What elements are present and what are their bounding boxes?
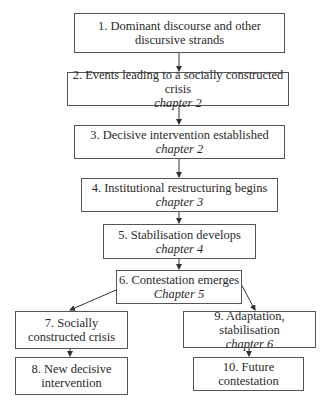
node-10-future-contestation: 10. Future contestation — [193, 357, 304, 391]
node-chapter: chapter 6 — [226, 337, 274, 351]
node-label: 8. New decisive — [31, 362, 111, 376]
node-label: 9. Adaptation, stabilisation — [184, 309, 315, 337]
node-label: 3. Decisive intervention established — [90, 128, 268, 142]
node-chapter: chapter 3 — [156, 195, 204, 209]
arrow-6-7 — [70, 290, 116, 310]
node-7-socially-constructed-crisis: 7. Socially constructed crisis — [15, 311, 128, 349]
node-chapter: chapter 4 — [156, 242, 204, 256]
node-2-events-crisis: 2. Events leading to a socially construc… — [67, 72, 289, 106]
node-label: 5. Stabilisation develops — [118, 228, 241, 242]
node-label: 1. Dominant discourse and other — [98, 19, 261, 33]
node-label: constructed crisis — [28, 330, 115, 344]
node-5-stabilisation: 5. Stabilisation develops chapter 4 — [103, 224, 256, 259]
node-label: discursive strands — [135, 33, 224, 47]
node-6-contestation: 6. Contestation emerges Chapter 5 — [116, 270, 242, 304]
node-3-decisive-intervention: 3. Decisive intervention established cha… — [74, 125, 285, 159]
node-label: 4. Institutional restructuring begins — [92, 181, 268, 195]
arrow-6-9 — [241, 284, 255, 310]
node-9-adaptation-stabilisation: 9. Adaptation, stabilisation chapter 6 — [183, 311, 316, 348]
node-chapter: Chapter 5 — [154, 287, 204, 301]
node-label: intervention — [41, 376, 101, 390]
node-label: 6. Contestation emerges — [119, 273, 239, 287]
node-label: 2. Events leading to a socially construc… — [68, 68, 288, 96]
node-1-dominant-discourse: 1. Dominant discourse and other discursi… — [74, 13, 285, 53]
node-chapter: chapter 2 — [156, 142, 204, 156]
node-8-new-decisive-intervention: 8. New decisive intervention — [15, 357, 128, 395]
node-4-institutional-restructuring: 4. Institutional restructuring begins ch… — [81, 178, 278, 212]
node-label: 7. Socially — [45, 316, 98, 330]
node-chapter: chapter 2 — [154, 96, 202, 110]
node-label: 10. Future contestation — [194, 360, 303, 388]
